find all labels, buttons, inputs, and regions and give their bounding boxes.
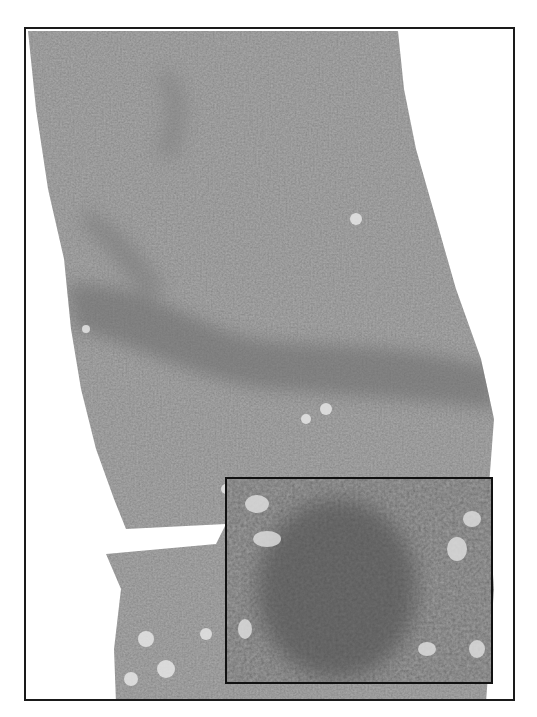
inset-tissue <box>227 479 493 684</box>
magnified-inset <box>225 477 493 684</box>
micrograph-frame <box>24 27 515 701</box>
